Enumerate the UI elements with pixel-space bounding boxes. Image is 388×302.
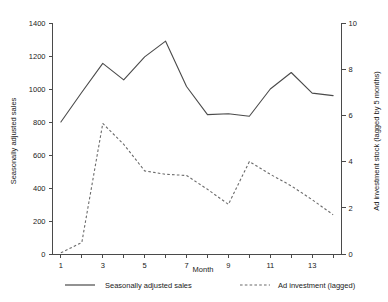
y-axis-left-tick-label: 400 bbox=[33, 184, 46, 193]
chart-legend: Seasonally adjusted salesAd investment (… bbox=[65, 281, 356, 290]
y-axis-right: 0246810 bbox=[342, 19, 357, 259]
y-axis-right-tick-label: 4 bbox=[349, 157, 353, 166]
y-axis-right-tick-label: 0 bbox=[349, 250, 353, 259]
y-axis-left-tick-label: 800 bbox=[33, 118, 46, 127]
x-axis-tick-label: 3 bbox=[101, 261, 105, 270]
series-line-2 bbox=[61, 123, 333, 252]
x-axis-tick-label: 11 bbox=[266, 261, 274, 270]
y-axis-left-title: Seasonally adjusted sales bbox=[9, 97, 18, 184]
x-axis-tick-label: 9 bbox=[226, 261, 230, 270]
x-axis-tick-label: 1 bbox=[59, 261, 63, 270]
legend-label-1: Seasonally adjusted sales bbox=[105, 281, 192, 290]
series-lines bbox=[61, 41, 333, 253]
y-axis-left-tick-label: 200 bbox=[33, 217, 46, 226]
x-axis-tick-label: 5 bbox=[143, 261, 147, 270]
y-axis-left-tick-label: 0 bbox=[41, 250, 45, 259]
chart-container: 0200400600800100012001400 0246810 135791… bbox=[0, 0, 388, 302]
line-chart: 0200400600800100012001400 0246810 135791… bbox=[0, 0, 388, 302]
x-axis-title: Month bbox=[193, 265, 214, 274]
y-axis-right-title: Ad investment stock (lagged by 5 months) bbox=[372, 71, 381, 211]
legend-label-2: Ad investment (lagged) bbox=[278, 281, 356, 290]
x-axis-tick-label: 13 bbox=[308, 261, 316, 270]
x-axis-tick-label: 7 bbox=[184, 261, 188, 270]
y-axis-left: 0200400600800100012001400 bbox=[29, 19, 53, 259]
y-axis-right-tick-label: 2 bbox=[349, 204, 353, 213]
y-axis-left-tick-label: 1000 bbox=[29, 85, 46, 94]
y-axis-right-tick-label: 6 bbox=[349, 111, 353, 120]
y-axis-right-tick-label: 8 bbox=[349, 65, 353, 74]
series-line-1 bbox=[61, 41, 333, 122]
y-axis-left-tick-label: 1200 bbox=[29, 52, 46, 61]
y-axis-left-tick-label: 1400 bbox=[29, 19, 46, 28]
y-axis-right-tick-label: 10 bbox=[349, 19, 357, 28]
y-axis-left-tick-label: 600 bbox=[33, 151, 46, 160]
